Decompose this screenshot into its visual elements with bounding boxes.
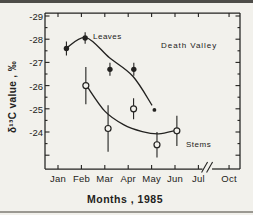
x-tick-label-jul: Jul	[192, 173, 205, 184]
series-label-stems: Stems	[186, 140, 211, 149]
x-tick-label-jun: Jun	[167, 173, 183, 184]
y-axis-label: δ¹³C value , ‰	[7, 61, 18, 133]
stems-data-point	[105, 126, 111, 132]
y-tick-label-25: -25	[16, 103, 43, 114]
stems-data-point	[131, 106, 137, 112]
figure-delta13c-chart: δ¹³C value , ‰ Months , 1985 Death Valle…	[0, 0, 253, 215]
y-tick-label-27: -27	[16, 57, 43, 68]
stems-data-point	[83, 83, 89, 89]
x-axis-label: Months , 1985	[87, 193, 163, 205]
x-tick-label-apr: Apr	[120, 173, 135, 184]
leaves-data-point	[131, 67, 136, 72]
annotation-death-valley: Death Valley	[161, 41, 217, 50]
leaves-data-point	[64, 46, 69, 51]
x-tick-label-may: May	[142, 173, 161, 184]
y-tick-label-26: -26	[16, 80, 43, 91]
x-tick-label-mar: Mar	[96, 173, 113, 184]
stems-data-point	[154, 142, 160, 148]
x-tick-label-jan: Jan	[50, 173, 66, 184]
leaves-data-point	[107, 67, 112, 72]
leaves-data-point	[82, 35, 87, 40]
x-tick-label-feb: Feb	[73, 173, 90, 184]
series-label-leaves: Leaves	[93, 32, 122, 41]
stems-data-point	[174, 128, 180, 134]
leaves-data-point	[153, 108, 157, 112]
y-tick-label-29: -29	[16, 11, 43, 22]
y-tick-label-28: -28	[16, 34, 43, 45]
x-tick-label-oct: Oct	[221, 173, 236, 184]
y-tick-label-24: -24	[16, 127, 43, 138]
